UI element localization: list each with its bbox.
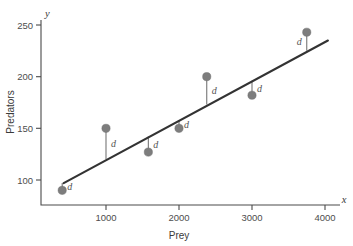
x-tick-label: 1000 <box>95 212 116 223</box>
residual-label: d <box>257 83 263 94</box>
residual-label: d <box>297 36 303 47</box>
data-point <box>203 73 211 81</box>
residual-label: d <box>67 181 73 192</box>
y-axis-ticks: 250 200 150 100 <box>17 20 41 186</box>
y-tick-label: 200 <box>17 71 33 82</box>
data-point <box>303 28 311 36</box>
x-tick-label: 3000 <box>241 212 262 223</box>
residual-segments-group <box>62 32 307 190</box>
y-tick-label: 100 <box>17 175 33 186</box>
residual-label: d <box>153 139 159 150</box>
data-point <box>102 124 110 132</box>
data-points-group <box>58 28 311 194</box>
data-point <box>144 148 152 156</box>
axes-group <box>41 20 340 205</box>
residual-label: d <box>111 138 117 149</box>
x-tick-label: 4000 <box>314 212 335 223</box>
residual-label: d <box>212 85 218 96</box>
axis-lines <box>41 20 340 205</box>
residual-labels-group: ddddddd <box>67 36 303 192</box>
data-point <box>58 186 66 194</box>
scatter-plot-figure: 250 200 150 100 1000 2000 3000 4000 y x … <box>0 0 353 246</box>
regression-line <box>64 41 328 184</box>
y-tick-label: 150 <box>17 123 33 134</box>
residual-label: d <box>184 119 190 130</box>
plot-canvas: 250 200 150 100 1000 2000 3000 4000 y x … <box>0 0 353 246</box>
y-axis-title: Predators <box>5 90 16 133</box>
x-tick-label: 2000 <box>168 212 189 223</box>
x-axis-ticks: 1000 2000 3000 4000 <box>95 205 335 223</box>
y-tick-label: 250 <box>17 20 33 31</box>
x-axis-title: Prey <box>169 230 190 241</box>
data-point <box>175 124 183 132</box>
x-axis-variable-label: x <box>341 194 347 205</box>
y-axis-variable-label: y <box>44 8 50 19</box>
data-point <box>248 91 256 99</box>
